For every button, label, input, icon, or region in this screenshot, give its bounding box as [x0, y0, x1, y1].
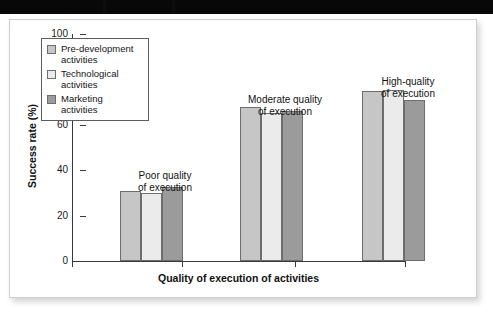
group-caption-high: High-quality of execution — [353, 76, 463, 100]
group-caption-line: of execution — [230, 106, 340, 118]
x-axis-title: Quality of execution of activities — [72, 272, 405, 284]
group-caption-line: High-quality — [353, 76, 463, 88]
x-tick — [72, 261, 73, 267]
legend-label-line: Technological — [61, 68, 119, 79]
bar-high-marketing — [404, 100, 425, 261]
legend-item-label: Pre-development activities — [61, 44, 133, 65]
legend-item-pre-development: Pre-development activities — [47, 44, 142, 65]
bar-high-technological — [383, 90, 404, 261]
bar-high-predevelopment — [362, 91, 383, 261]
x-tick — [295, 261, 296, 267]
group-caption-line: Poor quality — [110, 170, 220, 182]
group-caption-line: Moderate quality — [230, 94, 340, 106]
group-caption-line: of execution — [353, 88, 463, 100]
group-caption-poor: Poor quality of execution — [110, 170, 220, 194]
legend-item-marketing: Marketing activities — [47, 94, 142, 115]
bar-poor-marketing — [162, 187, 183, 261]
legend-swatch-icon — [47, 70, 56, 79]
y-tick-label: 40 — [34, 165, 68, 175]
legend-swatch-icon — [47, 45, 56, 54]
group-caption-moderate: Moderate quality of execution — [230, 94, 340, 118]
figure-panel: 100 80 60 40 20 0 Success rate (%) Quali… — [9, 19, 477, 298]
scanned-page: 100 80 60 40 20 0 Success rate (%) Quali… — [0, 0, 493, 316]
bar-moderate-predevelopment — [240, 107, 261, 261]
group-caption-line: of execution — [110, 182, 220, 194]
x-tick — [405, 261, 406, 267]
y-axis-title: Success rate (%) — [26, 86, 38, 206]
x-tick — [182, 261, 183, 267]
y-tick-label: 0 — [34, 256, 68, 266]
scan-edge-band — [0, 0, 493, 14]
y-tick-label: 20 — [34, 211, 68, 221]
legend-swatch-icon — [47, 95, 56, 104]
x-axis-line — [72, 261, 405, 262]
legend-label-line: Marketing — [61, 93, 103, 104]
y-tick-label: 60 — [34, 120, 68, 130]
legend-item-label: Technological activities — [61, 69, 119, 90]
chart-legend: Pre-development activities Technological… — [41, 38, 149, 121]
bar-moderate-marketing — [282, 111, 303, 261]
legend-label-line: activities — [61, 79, 97, 90]
bar-chart-plot: 100 80 60 40 20 0 Success rate (%) Quali… — [10, 20, 476, 297]
bar-poor-technological — [141, 193, 162, 261]
bar-poor-predevelopment — [120, 191, 141, 261]
legend-label-line: activities — [61, 54, 97, 65]
legend-item-label: Marketing activities — [61, 94, 103, 115]
legend-label-line: activities — [61, 104, 97, 115]
legend-item-technological: Technological activities — [47, 69, 142, 90]
bar-moderate-technological — [261, 113, 282, 261]
legend-label-line: Pre-development — [61, 43, 133, 54]
